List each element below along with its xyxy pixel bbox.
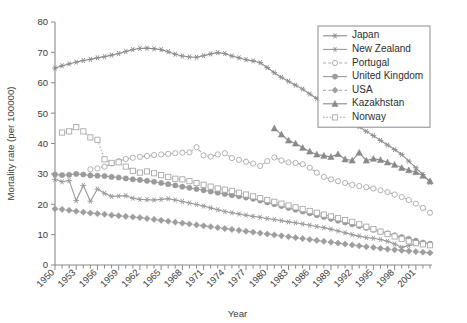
y-tick-label: 40 (37, 138, 48, 149)
data-point (123, 49, 129, 54)
data-point (159, 180, 164, 185)
data-point (194, 180, 199, 185)
data-point (137, 215, 143, 221)
legend-label: Japan (352, 29, 379, 40)
data-point (385, 239, 391, 244)
data-point (406, 248, 412, 254)
data-point (208, 184, 213, 189)
data-point (392, 192, 397, 197)
data-point (243, 57, 249, 62)
data-point (300, 162, 305, 167)
data-point (151, 171, 156, 176)
data-point (144, 46, 150, 51)
data-point (392, 247, 398, 253)
data-point (328, 177, 333, 182)
data-point (102, 164, 107, 169)
data-point (420, 205, 425, 210)
data-point (293, 160, 298, 165)
data-point (335, 240, 341, 246)
data-point (377, 245, 383, 251)
data-point (187, 179, 192, 184)
data-point (186, 221, 192, 227)
data-point (95, 173, 100, 178)
data-point (307, 208, 312, 213)
y-tick-label: 50 (37, 108, 48, 119)
data-point (370, 236, 376, 241)
data-point (80, 58, 86, 63)
data-point (293, 205, 298, 210)
data-point (194, 202, 200, 207)
data-point (364, 224, 369, 229)
data-point (278, 233, 284, 239)
x-tick-label: 1971 (183, 267, 205, 289)
data-point (292, 140, 298, 146)
data-point (201, 182, 206, 187)
data-point (371, 186, 376, 191)
data-point (109, 160, 114, 165)
legend-marker (332, 115, 337, 120)
mortality-rate-line-chart: 0102030405060708019501953195619591962196… (0, 0, 467, 323)
data-point (406, 239, 411, 244)
data-point (88, 135, 93, 140)
data-point (420, 172, 426, 178)
data-point (406, 197, 411, 202)
data-point (357, 183, 362, 188)
page-edge-artifact (452, 272, 466, 316)
data-point (279, 201, 284, 206)
data-point (94, 211, 100, 217)
y-axis-title: Mortality rate (per 100000) (5, 86, 16, 200)
x-tick-label: 1950 (35, 267, 57, 289)
data-point (399, 247, 405, 253)
data-point (144, 197, 150, 202)
data-point (208, 51, 214, 56)
data-point (427, 243, 432, 248)
data-point (88, 173, 93, 178)
data-point (342, 156, 348, 162)
data-point (321, 225, 327, 230)
data-point (363, 235, 369, 240)
data-point (328, 239, 334, 245)
data-point (200, 223, 206, 229)
data-point (250, 214, 256, 219)
data-point (286, 160, 291, 165)
x-tick-label: 1983 (268, 267, 290, 289)
data-point (257, 215, 263, 220)
data-point (335, 151, 341, 157)
data-point (194, 55, 200, 60)
data-point (73, 208, 79, 214)
legend-label: Norway (352, 111, 386, 122)
data-point (102, 173, 107, 178)
data-point (427, 210, 432, 215)
data-point (335, 216, 340, 221)
data-point (356, 234, 362, 239)
data-point (215, 225, 221, 231)
x-tick-label: 2001 (396, 267, 418, 289)
data-point (201, 204, 207, 209)
data-point (130, 155, 135, 160)
data-point (399, 165, 405, 171)
data-point (130, 47, 136, 52)
data-point (286, 203, 291, 208)
data-point (265, 197, 270, 202)
data-point (349, 232, 355, 237)
data-point (109, 174, 114, 179)
data-point (370, 244, 376, 250)
data-point (116, 160, 121, 165)
data-point (356, 149, 362, 155)
data-point (307, 236, 313, 242)
data-point (179, 54, 185, 59)
data-point (364, 185, 369, 190)
data-point (222, 187, 227, 192)
data-point (236, 211, 242, 216)
data-point (279, 158, 284, 163)
data-point (194, 186, 199, 191)
x-tick-label: 1968 (162, 267, 184, 289)
data-point (165, 196, 171, 201)
data-point (208, 205, 214, 210)
y-tick-label: 30 (37, 168, 48, 179)
data-point (215, 152, 220, 157)
data-point (236, 157, 241, 162)
data-point (342, 180, 347, 185)
data-point (222, 209, 228, 214)
data-point (300, 235, 306, 241)
